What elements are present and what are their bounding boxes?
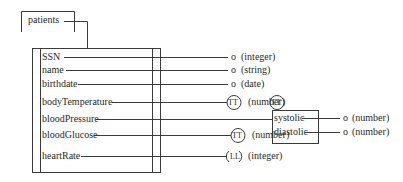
type-name: (string) <box>241 65 270 75</box>
collection-marker-bloodpressure-icon: TT <box>271 98 281 108</box>
root-label-patients: patients <box>28 15 59 25</box>
type-ssn: (integer) <box>241 52 275 62</box>
leaf-marker-systolic: o <box>343 113 348 123</box>
leaf-marker-ssn: o <box>231 52 236 62</box>
leaf-marker-diastolic: o <box>343 127 348 137</box>
struct-field-systolic: systolic <box>274 113 305 123</box>
type-birthdate: (date) <box>241 79 264 89</box>
leaf-marker-birthdate: o <box>231 79 236 89</box>
field-label-name: name <box>42 65 64 75</box>
type-diastolic: (number) <box>352 127 389 137</box>
patients-connector <box>64 22 88 49</box>
type-heartrate: (integer) <box>248 151 282 161</box>
struct-field-diastolic: diastolic <box>274 127 308 137</box>
field-label-heartrate: heartRate <box>42 151 80 161</box>
leaf-marker-name: o <box>231 65 236 75</box>
field-label-birthdate: birthdate <box>42 79 78 89</box>
field-label-bloodpressure: bloodPressure <box>42 114 99 124</box>
collection-marker-heartrate-icon: LL <box>230 152 240 162</box>
type-systolic: (number) <box>352 113 389 123</box>
field-label-ssn: SSN <box>42 52 60 62</box>
field-label-bloodglucose: bloodGlucose <box>42 130 98 140</box>
collection-marker-bloodglucose-icon: TT <box>232 131 242 141</box>
collection-marker-bodytemperature-icon: TT <box>228 98 238 108</box>
field-label-bodytemperature: bodyTemperature <box>42 97 112 107</box>
